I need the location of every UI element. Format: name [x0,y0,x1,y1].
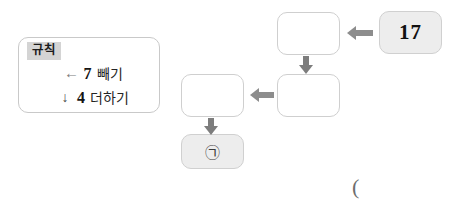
rule-card: 규칙 ← 7 빼기 ↓ 4 더하기 [18,37,160,113]
arrow-left-icon [250,87,274,103]
arrow-shaft [259,92,274,98]
arrow-head [347,26,356,40]
flow-box-step2[interactable] [277,74,340,117]
flow-box-value: ㉠ [205,141,220,162]
arrow-head [299,65,313,74]
rule-number: 4 [77,89,85,107]
rule-operation: 빼기 [97,63,123,83]
flow-box-value: 17 [399,20,422,45]
flow-box-step1[interactable] [277,12,340,55]
arrow-down-icon: ↓ [55,91,75,105]
rule-item-add: ↓ 4 더하기 [19,87,159,111]
arrow-head [204,126,218,135]
stray-parenthesis: ( [352,176,359,198]
arrow-down-icon [298,56,314,74]
rule-operation: 더하기 [90,87,129,107]
rule-number: 7 [84,65,92,83]
rule-item-subtract: ← 7 빼기 [19,63,159,87]
arrow-left-icon: ← [62,66,82,81]
arrow-down-icon [203,118,219,135]
rule-card-title: 규칙 [27,42,61,60]
worksheet-canvas: 규칙 ← 7 빼기 ↓ 4 더하기 17 ㉠ [0,0,458,204]
flow-box-start: 17 [379,11,442,54]
arrow-head [250,88,259,102]
flow-box-step3[interactable] [181,74,244,117]
arrow-shaft [356,30,373,36]
rule-list: ← 7 빼기 ↓ 4 더하기 [19,63,159,111]
arrow-left-icon [347,25,373,41]
flow-box-answer: ㉠ [181,134,244,169]
